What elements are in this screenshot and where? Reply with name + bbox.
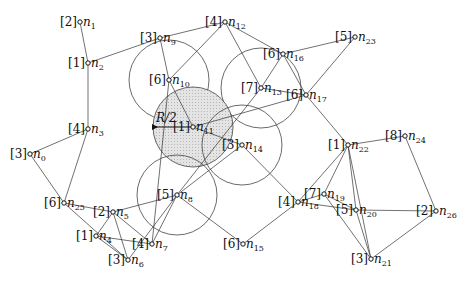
node-marker-icon	[150, 242, 154, 246]
node-marker-icon	[62, 201, 66, 205]
node-n20[interactable]: [5]n20	[336, 203, 377, 219]
node-tag: [1]	[328, 138, 345, 152]
node-n26[interactable]: [2]n26	[416, 204, 457, 220]
node-n8[interactable]: [5]n8	[157, 188, 193, 204]
node-marker-icon	[240, 143, 244, 147]
graph-nodes: [3]n0[2]n1[1]n2[4]n3[1]n4[2]n5[3]n6[4]n7…	[10, 15, 457, 269]
coverage-circles	[129, 40, 301, 235]
node-name: n26	[439, 204, 457, 220]
node-name: n1	[83, 15, 96, 31]
node-marker-icon	[241, 242, 245, 246]
node-marker-icon	[434, 209, 438, 213]
node-name: n12	[228, 15, 246, 31]
node-tag: [5]	[336, 203, 353, 217]
graph-canvas: R/2 [3]n0[2]n1[1]n2[4]n3[1]n4[2]n5[3]n6[…	[0, 0, 473, 284]
node-tag: [3]	[108, 253, 125, 267]
node-tag: [2]	[93, 205, 110, 219]
node-marker-icon	[296, 200, 300, 204]
node-name: n21	[374, 252, 392, 268]
node-n2[interactable]: [1]n2	[68, 56, 104, 72]
edge-n10-n12	[169, 22, 225, 80]
node-name: n15	[246, 237, 264, 253]
edge-n24-n26	[405, 136, 436, 211]
node-n14[interactable]: [3]n14	[222, 138, 263, 154]
node-marker-icon	[304, 93, 308, 97]
node-marker-icon	[354, 208, 358, 212]
node-name: n22	[351, 138, 369, 154]
node-name: n17	[309, 88, 327, 104]
node-name: n10	[172, 73, 190, 89]
node-name: n4	[99, 229, 112, 245]
node-n16[interactable]: [6]n16	[263, 47, 304, 63]
node-tag: [5]	[335, 30, 352, 44]
edge-n22-n21	[348, 145, 371, 259]
node-tag: [7]	[241, 81, 258, 95]
node-tag: [5]	[157, 188, 174, 202]
node-name: n14	[245, 138, 263, 154]
node-n10[interactable]: [6]n10	[149, 73, 190, 89]
node-name: n25	[67, 196, 85, 212]
node-marker-icon	[346, 143, 350, 147]
node-name: n23	[358, 30, 376, 46]
node-n0[interactable]: [3]n0	[10, 147, 46, 163]
node-marker-icon	[369, 257, 373, 261]
node-name: n20	[359, 203, 377, 219]
node-n9[interactable]: [3]n9	[140, 31, 176, 47]
node-tag: [1]	[173, 120, 190, 134]
node-name: n0	[33, 147, 46, 163]
node-marker-icon	[167, 78, 171, 82]
node-tag: [6]	[44, 196, 61, 210]
node-marker-icon	[86, 127, 90, 131]
node-name: n24	[408, 129, 426, 145]
node-n19[interactable]: [7]n19	[304, 187, 345, 203]
node-n4[interactable]: [1]n4	[76, 229, 112, 245]
node-marker-icon	[111, 210, 115, 214]
node-name: n8	[180, 188, 193, 204]
node-n7[interactable]: [4]n7	[132, 237, 168, 253]
node-tag: [2]	[60, 15, 77, 29]
node-n6[interactable]: [3]n6	[108, 253, 144, 269]
node-tag: [6]	[286, 88, 303, 102]
node-marker-icon	[126, 258, 130, 262]
network-diagram: R/2 [3]n0[2]n1[1]n2[4]n3[1]n4[2]n5[3]n6[…	[0, 0, 473, 284]
node-name: n6	[131, 253, 144, 269]
node-n17[interactable]: [6]n17	[286, 88, 327, 104]
node-tag: [4]	[278, 195, 295, 209]
node-n21[interactable]: [3]n21	[351, 252, 392, 268]
node-tag: [6]	[263, 47, 280, 61]
edge-n14-n18	[242, 145, 298, 202]
node-n5[interactable]: [2]n5	[93, 205, 129, 221]
node-marker-icon	[28, 152, 32, 156]
node-tag: [3]	[351, 252, 368, 266]
edge-n3-n25	[64, 129, 88, 203]
node-n24[interactable]: [8]n24	[385, 129, 426, 145]
node-tag: [3]	[10, 147, 27, 161]
node-marker-icon	[322, 192, 326, 196]
node-tag: [6]	[149, 73, 166, 87]
node-name: n13	[264, 81, 282, 97]
node-tag: [1]	[68, 56, 85, 70]
node-n23[interactable]: [5]n23	[335, 30, 376, 46]
node-n25[interactable]: [6]n25	[44, 196, 85, 212]
node-n12[interactable]: [4]n12	[205, 15, 246, 31]
node-n1[interactable]: [2]n1	[60, 15, 96, 31]
edge-n17-n23	[306, 37, 355, 95]
node-name: n19	[327, 187, 345, 203]
node-marker-icon	[403, 134, 407, 138]
node-tag: [6]	[223, 237, 240, 251]
node-tag: [2]	[416, 204, 433, 218]
node-marker-icon	[259, 86, 263, 90]
node-marker-icon	[94, 234, 98, 238]
node-marker-icon	[158, 36, 162, 40]
node-tag: [3]	[222, 138, 239, 152]
node-tag: [1]	[76, 229, 93, 243]
node-name: n7	[155, 237, 168, 253]
node-tag: [8]	[385, 129, 402, 143]
node-n13[interactable]: [7]n13	[241, 81, 282, 97]
node-marker-icon	[281, 52, 285, 56]
node-tag: [4]	[205, 15, 222, 29]
node-n15[interactable]: [6]n15	[223, 237, 264, 253]
node-name: n9	[163, 31, 176, 47]
node-tag: [4]	[132, 237, 149, 251]
node-marker-icon	[175, 193, 179, 197]
